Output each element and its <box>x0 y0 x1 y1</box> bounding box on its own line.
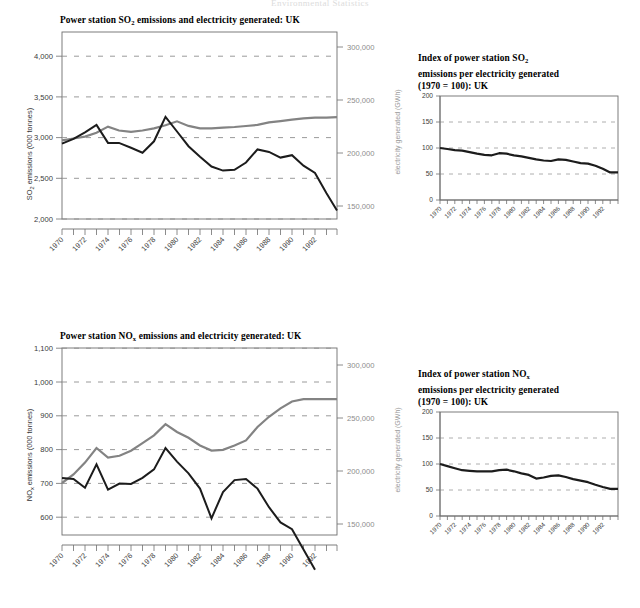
yaxis-label-nox-main-left: NOx emissions (000 tonnes) <box>25 409 35 501</box>
xtick-so2-main-4: 1978 <box>139 235 157 253</box>
ytick-so2-main-1: 2,500 <box>34 174 53 183</box>
xtick-nox-main-10: 1990 <box>277 551 295 569</box>
xtick-so2-main-3: 1976 <box>116 235 134 253</box>
plot-area-nox-main <box>62 348 337 535</box>
xtick-nox-main-5: 1980 <box>162 551 180 569</box>
xtick-nox-index-10: 1990 <box>576 520 591 535</box>
chart-title-nox-index-pre: Index of power station NO <box>418 369 527 379</box>
yaxis-so2-index: 0 50 100 150 200 <box>422 92 440 203</box>
yaxis-right-so2-main: 150,000 200,000 250,000 300,000 <box>337 43 374 211</box>
xtick-so2-index-11: 1992 <box>591 204 606 219</box>
xtick-nox-index-1: 1972 <box>443 520 458 535</box>
xtick-nox-index-9: 1988 <box>561 520 576 535</box>
chart-title-nox-index-l3: (1970 = 100): UK <box>418 397 488 407</box>
xtick-nox-index-11: 1992 <box>591 520 606 535</box>
gridlines-so2-index <box>440 122 618 174</box>
chart-title-so2-index-l3: (1970 = 100): UK <box>418 81 488 91</box>
xaxis-so2-main: 1970 1972 1974 1976 1978 1980 1982 1984 … <box>47 229 337 253</box>
ytick-nox-main-5: 1,100 <box>34 344 53 353</box>
yaxis-left-nox-main: 600 700 800 900 1,000 1,100 <box>34 344 62 522</box>
plot-area-so2-main <box>62 32 337 219</box>
xtick-so2-index-9: 1988 <box>561 204 576 219</box>
xtick-nox-main-0: 1970 <box>47 551 65 569</box>
xtick-so2-index-6: 1982 <box>517 204 532 219</box>
xtick-nox-main-7: 1984 <box>208 551 226 569</box>
series-so2-index <box>440 148 618 172</box>
xtick-so2-index-5: 1980 <box>502 204 517 219</box>
chart-panel-nox-index: Index of power station NOx emissions per… <box>418 368 640 558</box>
chart-title-nox-index: Index of power station NOx emissions per… <box>418 368 633 409</box>
xtick-nox-index-0: 1970 <box>428 520 443 535</box>
xtick-nox-main-1: 1972 <box>70 551 88 569</box>
chart-svg-so2-index: 0 50 100 150 200 <box>418 92 640 242</box>
ytick-so2-index-3: 150 <box>422 118 433 125</box>
xtick-so2-main-5: 1980 <box>162 235 180 253</box>
chart-title-so2-index: Index of power station SO2 emissions per… <box>418 52 633 93</box>
xtick-so2-main-2: 1974 <box>93 235 111 253</box>
xtick-nox-main-4: 1978 <box>139 551 157 569</box>
xtick-nox-main-2: 1974 <box>93 551 111 569</box>
ytick-nox-main-4: 1,000 <box>34 378 53 387</box>
xtick-nox-index-4: 1978 <box>487 520 502 535</box>
ytick-so2-index-2: 100 <box>422 144 433 151</box>
series-so2-emissions <box>62 117 337 211</box>
plot-area-so2-index <box>440 96 618 200</box>
yaxis-left-so2-main: 2,000 2,500 3,000 3,500 4,000 <box>34 52 62 224</box>
ytick-nox-index-3: 150 <box>422 434 433 441</box>
ytick-nox-main-1: 700 <box>40 479 53 488</box>
xtick-nox-index-6: 1982 <box>517 520 532 535</box>
page-header: Environmental Statistics <box>0 0 640 8</box>
xtick-nox-index-8: 1986 <box>546 520 561 535</box>
series-nox-emissions <box>62 448 315 570</box>
xtick-so2-index-0: 1970 <box>428 204 443 219</box>
ytick-so2-main-3: 3,500 <box>34 93 53 102</box>
ytick-nox-index-1: 50 <box>426 486 434 493</box>
xtick-so2-index-3: 1976 <box>472 204 487 219</box>
xtick-so2-index-10: 1990 <box>576 204 591 219</box>
ytick-so2-main-4: 4,000 <box>34 52 53 61</box>
yaxis-nox-index: 0 50 100 150 200 <box>422 408 440 519</box>
figure-page: Environmental Statistics Power station S… <box>0 0 640 608</box>
ytick-nox-main-0: 600 <box>40 513 53 522</box>
yaxis-right-nox-main: 150,000 200,000 250,000 300,000 <box>337 361 374 529</box>
chart-title-so2-main: Power station SO2 emissions and electric… <box>60 14 410 30</box>
xtick-nox-index-7: 1984 <box>532 520 547 535</box>
chart-title-nox-main-post: emissions and electricity generated: UK <box>136 331 301 341</box>
ytick-so2-index-0: 0 <box>429 196 433 203</box>
xtick-so2-main-6: 1982 <box>185 235 203 253</box>
chart-svg-so2-main: 2,000 2,500 3,000 3,500 4,000 SO2 emissi… <box>22 14 412 284</box>
xtick-so2-index-7: 1984 <box>532 204 547 219</box>
xtick-nox-main-9: 1988 <box>254 551 272 569</box>
chart-title-so2-index-pre: Index of power station SO <box>418 53 525 63</box>
ytick-so2-index-4: 200 <box>422 92 433 99</box>
chart-title-nox-index-l2: emissions per electricity generated <box>418 385 559 395</box>
ytick-nox-main-2: 800 <box>40 445 53 454</box>
ytick-so2-main-0: 2,000 <box>34 215 53 224</box>
chart-title-so2-main-pre: Power station SO <box>60 15 131 25</box>
xtick-so2-main-11: 1992 <box>300 235 318 253</box>
ytick-nox-index-2: 100 <box>422 460 433 467</box>
xtick-so2-main-0: 1970 <box>47 235 65 253</box>
ytick-so2-main-2: 3,000 <box>34 133 53 142</box>
xtick-so2-main-8: 1986 <box>231 235 249 253</box>
yaxis-label-so2-main-right: electricity generated (GWh) <box>394 89 402 174</box>
xtick-nox-index-3: 1976 <box>472 520 487 535</box>
chart-panel-so2-main: Power station SO2 emissions and electric… <box>22 14 412 304</box>
chart-title-so2-index-l2: emissions per electricity generated <box>418 69 559 79</box>
xtick-so2-index-1: 1972 <box>443 204 458 219</box>
xtick-so2-main-7: 1984 <box>208 235 226 253</box>
xtick-so2-main-10: 1990 <box>277 235 295 253</box>
xtick-so2-index-8: 1986 <box>546 204 561 219</box>
xtick-nox-index-2: 1974 <box>458 520 473 535</box>
ytick-right-so2-main-0: 150,000 <box>347 202 374 211</box>
ytick-right-nox-main-2: 250,000 <box>347 414 374 423</box>
xtick-nox-main-6: 1982 <box>185 551 203 569</box>
ytick-right-nox-main-1: 200,000 <box>347 467 374 476</box>
chart-svg-nox-main: 600 700 800 900 1,000 1,100 NOx emission… <box>22 330 412 592</box>
xtick-so2-main-1: 1972 <box>70 235 88 253</box>
chart-panel-so2-index: Index of power station SO2 emissions per… <box>418 52 640 242</box>
yaxis-label-nox-main-right: electricity generated (GWh) <box>394 407 402 492</box>
ytick-right-nox-main-3: 300,000 <box>347 361 374 370</box>
chart-svg-nox-index: 0 50 100 150 200 <box>418 408 640 558</box>
plot-area-nox-index <box>440 412 618 516</box>
